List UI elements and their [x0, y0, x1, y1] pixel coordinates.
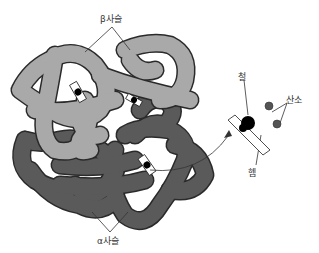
beta-chain-label: β사슬 [100, 12, 122, 25]
iron-atom-shadow [239, 124, 247, 132]
heme-label: 헴 [248, 166, 256, 179]
oxygen-molecules [265, 102, 281, 128]
oxygen-atom-2 [273, 120, 281, 128]
iron-pointer [244, 80, 248, 115]
enlarged-heme [228, 115, 270, 155]
arrow-head [224, 130, 232, 138]
oxygen-label: 산소 [286, 93, 302, 106]
oxygen-atom-1 [265, 102, 273, 110]
iron-label: 철 [238, 70, 246, 83]
hemoglobin-diagram [0, 0, 319, 253]
alpha-chain-label: α사슬 [97, 234, 119, 247]
